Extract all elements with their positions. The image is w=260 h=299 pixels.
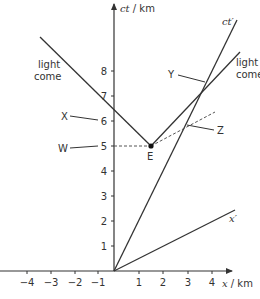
- light-come-right-line2: come: [236, 69, 260, 80]
- label-Y: Y: [167, 69, 175, 80]
- x-tick-label: 2: [160, 277, 166, 288]
- ct-prime-axis: [114, 20, 237, 271]
- ct-axis-label: ct / km: [120, 3, 155, 14]
- x-tick-label: 1: [136, 277, 142, 288]
- ct-tick-label: 8: [101, 66, 107, 77]
- event-E-label: E: [147, 151, 153, 162]
- x-tick-label: 4: [209, 277, 215, 288]
- light-ray-right: [151, 52, 240, 146]
- x-tick-label: 3: [185, 277, 191, 288]
- light-come-right-line1: light: [236, 57, 258, 68]
- x-prime-label: x′: [229, 213, 238, 224]
- leader-X: [70, 116, 98, 120]
- ct-tick-label: 2: [101, 216, 107, 227]
- leader-Z: [187, 125, 214, 130]
- light-come-left-line1: light: [38, 59, 60, 70]
- ct-prime-label: ct′: [222, 16, 235, 27]
- light-come-left-line2: come: [34, 71, 62, 82]
- x-tick-label: −4: [20, 277, 35, 288]
- x-tick-label: −1: [91, 277, 106, 288]
- ct-tick-label: 6: [101, 116, 107, 127]
- event-E-point: [148, 143, 153, 148]
- x-prime-axis: [114, 210, 235, 271]
- x-axis-label: x / km: [222, 278, 253, 289]
- x-axis-tick-labels: −4 −3 −2 −1 1 2 3 4: [20, 277, 216, 288]
- label-Z: Z: [217, 125, 224, 136]
- ct-tick-label: 1: [101, 241, 107, 252]
- x-tick-label: −2: [68, 277, 83, 288]
- ct-tick-label: 4: [101, 166, 107, 177]
- leader-Y: [178, 75, 205, 82]
- label-W: W: [58, 143, 68, 154]
- ct-tick-label: 5: [101, 141, 107, 152]
- x-tick-label: −3: [44, 277, 59, 288]
- ct-tick-label: 3: [101, 191, 107, 202]
- label-X: X: [61, 111, 68, 122]
- dashed-line-Z: [151, 112, 215, 146]
- light-ray-left: [40, 37, 151, 146]
- leader-W: [70, 146, 98, 148]
- spacetime-diagram: −4 −3 −2 −1 1 2 3 4 x / km 1 2 3 4 5 6 7…: [0, 0, 260, 299]
- ct-axis-tick-labels: 1 2 3 4 5 6 7 8: [101, 66, 107, 252]
